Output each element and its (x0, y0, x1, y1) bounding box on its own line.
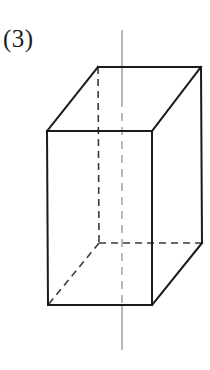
bottom-right-slant-edge (152, 243, 202, 305)
back-left-vertical-edge (98, 67, 99, 243)
top-right-slant-edge (152, 67, 201, 131)
front-left-edge (47, 131, 48, 305)
hidden-edges-group (48, 67, 202, 305)
bottom-left-slant-edge (48, 243, 99, 305)
rectangular-prism-diagram (0, 0, 210, 370)
back-right-vertical-edge (201, 67, 202, 243)
figure-root: (3) (0, 0, 210, 370)
solid-edges-group (47, 67, 202, 305)
top-left-slant-edge (47, 67, 98, 131)
